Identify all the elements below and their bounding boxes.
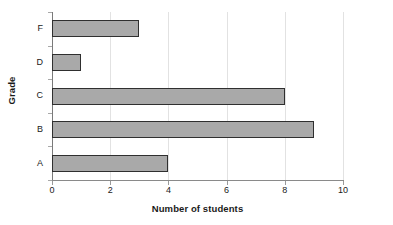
y-axis-tick-label-b: B [22,125,48,134]
y-tick-mark-5 [48,180,52,181]
y-tick-mark-4 [48,146,52,147]
bar-c[interactable] [52,88,285,105]
y-tick-mark-0 [48,12,52,13]
x-axis-title: Number of students [52,203,343,214]
x-axis-tick-label-0: 0 [49,186,54,195]
y-axis-title: Grade [2,0,22,180]
bar-row-a [52,146,168,180]
x-axis-line [52,180,344,181]
bar-d[interactable] [52,54,81,71]
y-axis-tick-labels: ABCDF [22,12,48,180]
x-axis-tick-labels: 0246810 [0,186,393,200]
bar-row-b [52,113,314,147]
gridline-10 [343,12,344,180]
y-tick-mark-2 [48,79,52,80]
y-tick-mark-1 [48,46,52,47]
bars-layer [52,12,343,180]
bar-a[interactable] [52,155,168,172]
bar-b[interactable] [52,121,314,138]
y-tick-mark-3 [48,113,52,114]
y-axis-tick-label-c: C [22,91,48,100]
bar-row-d [52,46,81,80]
x-axis-tick-label-6: 6 [224,186,229,195]
x-axis-tick-label-4: 4 [166,186,171,195]
y-axis-tick-label-a: A [22,159,48,168]
x-axis-tick-label-2: 2 [108,186,113,195]
y-axis-title-text: Grade [7,76,18,104]
y-axis-tick-label-f: F [22,24,48,33]
y-axis-tick-label-d: D [22,58,48,67]
plot-area [52,12,343,180]
bar-row-f [52,12,139,46]
x-axis-tick-label-8: 8 [282,186,287,195]
bar-row-c [52,79,285,113]
bar-f[interactable] [52,20,139,37]
bar-chart-figure: Grade ABCDF 0246810 Number of students [0,0,393,225]
x-axis-tick-label-10: 10 [338,186,348,195]
